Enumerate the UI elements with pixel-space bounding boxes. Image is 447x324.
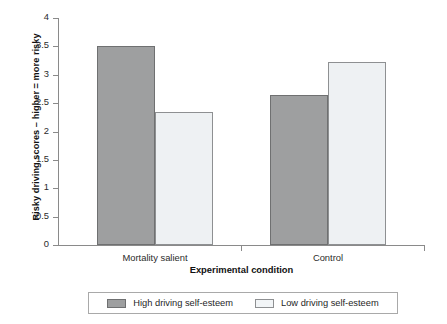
y-tick-2: 2: [53, 132, 58, 133]
bar-control-low[interactable]: [328, 62, 386, 245]
y-tick-3p5: 3.5: [53, 46, 58, 47]
x-category-label-control: Control: [313, 252, 343, 263]
x-category-label-mortality-salient: Mortality salient: [122, 252, 187, 263]
bar-mortality-salient-low[interactable]: [155, 112, 213, 245]
x-tick-right-end: [424, 246, 425, 251]
y-tick-0p5: 0.5: [53, 217, 58, 218]
legend-label-low: Low driving self-esteem: [281, 298, 379, 308]
x-axis-title: Experimental condition: [58, 264, 425, 275]
risky-driving-bar-chart: Risky driving scores – higher = more ris…: [0, 0, 447, 324]
y-tick-label-1: 1: [44, 181, 49, 192]
y-tick-label-0p5: 0.5: [36, 210, 49, 221]
y-tick-label-1p5: 1.5: [36, 153, 49, 164]
y-tick-1: 1: [53, 188, 58, 189]
legend-label-high: High driving self-esteem: [133, 298, 233, 308]
y-tick-label-3: 3: [44, 68, 49, 79]
legend-swatch-high-icon: [107, 299, 126, 308]
x-tick-group-separator: [241, 246, 242, 251]
y-tick-label-2p5: 2.5: [36, 96, 49, 107]
y-tick-4: 4: [53, 18, 58, 19]
y-tick-3: 3: [53, 75, 58, 76]
y-tick-2p5: 2.5: [53, 103, 58, 104]
bar-mortality-salient-high[interactable]: [97, 46, 155, 245]
y-axis-line: [58, 18, 59, 246]
plot-area: 4 3.5 3 2.5 2 1.5 1 0.5 0: [58, 18, 425, 246]
y-tick-label-2: 2: [44, 125, 49, 136]
y-tick-label-3p5: 3.5: [36, 39, 49, 50]
legend-entry-high[interactable]: High driving self-esteem: [107, 298, 233, 308]
legend-entry-low[interactable]: Low driving self-esteem: [255, 298, 379, 308]
legend-swatch-low-icon: [255, 299, 274, 308]
y-tick-1p5: 1.5: [53, 160, 58, 161]
legend: High driving self-esteem Low driving sel…: [88, 292, 398, 314]
y-tick-0: 0: [53, 245, 58, 246]
y-tick-label-4: 4: [44, 11, 49, 22]
y-tick-label-0: 0: [44, 238, 49, 249]
bar-control-high[interactable]: [270, 95, 328, 245]
